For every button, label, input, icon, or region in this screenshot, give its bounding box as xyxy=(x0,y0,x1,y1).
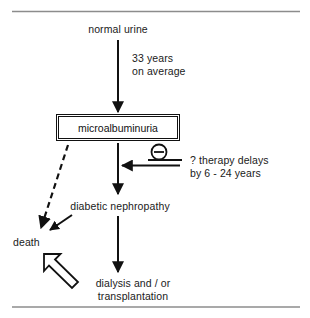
annotation-therapy-line1: ? therapy delays xyxy=(190,154,269,167)
arrow-nephropathy-to-death xyxy=(50,215,72,230)
annotation-therapy-line2: by 6 - 24 years xyxy=(190,167,261,180)
node-label-normal-urine: normal urine xyxy=(88,23,148,36)
node-box-microalbuminuria: microalbuminuria xyxy=(58,116,178,139)
node-label-dialysis-transplantation: dialysis and / or transplantation xyxy=(96,277,171,302)
arrow-microalbuminuria-to-death-dashed xyxy=(41,145,68,228)
diagram-figure: normal urine 33 years on average microal… xyxy=(0,0,310,318)
arrow-dialysis-to-death-hollow xyxy=(44,254,78,288)
node-label-death: death xyxy=(13,236,40,249)
annotation-progression-time-line1: 33 years xyxy=(132,52,173,65)
annotation-progression-time-line2: on average xyxy=(132,65,186,78)
node-label-microalbuminuria: microalbuminuria xyxy=(59,122,177,134)
node-label-diabetic-nephropathy: diabetic nephropathy xyxy=(70,200,170,213)
